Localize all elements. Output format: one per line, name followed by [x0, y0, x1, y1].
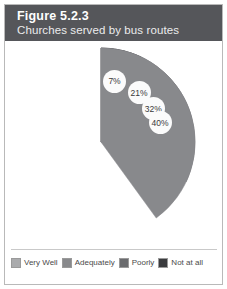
legend-item[interactable]: Not at all: [158, 258, 203, 268]
legend-item-label: Not at all: [171, 258, 203, 268]
legend-item-label: Poorly: [132, 258, 155, 268]
figure-card: Figure 5.2.3 Churches served by bus rout…: [0, 0, 227, 289]
legend-swatch-icon: [11, 258, 21, 268]
legend-item[interactable]: Poorly: [119, 258, 155, 268]
chart-legend: Very WellAdequatelyPoorlyNot at all: [11, 256, 217, 270]
pie-slice-label: 7%: [103, 70, 126, 93]
legend-swatch-icon: [119, 258, 129, 268]
legend-swatch-icon: [158, 258, 168, 268]
figure-header: Figure 5.2.3 Churches served by bus rout…: [5, 5, 222, 41]
legend-divider: [11, 249, 217, 250]
legend-item-label: Very Well: [24, 258, 58, 268]
pie-slice-label: 40%: [149, 111, 172, 134]
pie-chart: 21%7%32%40%: [6, 41, 221, 247]
legend-item[interactable]: Very Well: [11, 258, 58, 268]
figure-title: Figure 5.2.3: [17, 9, 89, 23]
figure-subtitle: Churches served by bus routes: [17, 23, 179, 37]
legend-item[interactable]: Adequately: [62, 258, 115, 268]
legend-item-label: Adequately: [75, 258, 115, 268]
legend-swatch-icon: [62, 258, 72, 268]
